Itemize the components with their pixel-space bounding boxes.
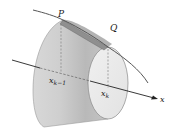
label-p: P bbox=[57, 9, 65, 19]
arrow-icon bbox=[151, 96, 158, 100]
surface-of-revolution-diagram: P Q xk−1 xk x bbox=[0, 0, 172, 137]
label-q: Q bbox=[110, 23, 118, 33]
label-x-axis: x bbox=[160, 95, 165, 104]
